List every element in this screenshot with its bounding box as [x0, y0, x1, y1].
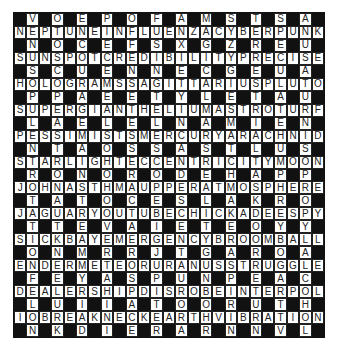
letter-cell[interactable]: C	[225, 156, 237, 169]
letter-cell[interactable]: B	[237, 26, 249, 39]
letter-cell[interactable]: R	[138, 259, 150, 272]
letter-cell[interactable]: I	[212, 156, 224, 169]
letter-cell[interactable]: M	[76, 259, 88, 272]
letter-cell[interactable]: O	[51, 13, 63, 26]
letter-cell[interactable]: R	[163, 130, 175, 143]
letter-cell[interactable]: U	[150, 259, 162, 272]
letter-cell[interactable]: N	[150, 65, 162, 78]
letter-cell[interactable]: S	[101, 130, 113, 143]
letter-cell[interactable]: O	[188, 285, 200, 298]
letter-cell[interactable]: M	[200, 104, 212, 117]
letter-cell[interactable]: U	[150, 26, 162, 39]
letter-cell[interactable]: E	[126, 52, 138, 65]
letter-cell[interactable]: R	[299, 104, 311, 117]
letter-cell[interactable]: E	[26, 26, 38, 39]
letter-cell[interactable]: C	[76, 39, 88, 52]
letter-cell[interactable]: T	[212, 52, 224, 65]
letter-cell[interactable]: Y	[88, 233, 100, 246]
letter-cell[interactable]: C	[101, 52, 113, 65]
letter-cell[interactable]: N	[26, 39, 38, 52]
letter-cell[interactable]: D	[175, 169, 187, 182]
letter-cell[interactable]: L	[299, 259, 311, 272]
letter-cell[interactable]: H	[138, 104, 150, 117]
letter-cell[interactable]: L	[312, 233, 324, 246]
letter-cell[interactable]: C	[200, 65, 212, 78]
letter-cell[interactable]: T	[274, 298, 286, 311]
letter-cell[interactable]: H	[101, 181, 113, 194]
letter-cell[interactable]: I	[113, 285, 125, 298]
letter-cell[interactable]: Y	[88, 207, 100, 220]
letter-cell[interactable]: C	[138, 156, 150, 169]
letter-cell[interactable]: E	[262, 52, 274, 65]
letter-cell[interactable]: S	[14, 156, 26, 169]
letter-cell[interactable]: R	[76, 207, 88, 220]
letter-cell[interactable]: Z	[188, 26, 200, 39]
letter-cell[interactable]: T	[150, 298, 162, 311]
letter-cell[interactable]: O	[299, 194, 311, 207]
letter-cell[interactable]: I	[101, 298, 113, 311]
letter-cell[interactable]: E	[101, 65, 113, 78]
letter-cell[interactable]: Y	[312, 207, 324, 220]
letter-cell[interactable]: U	[299, 91, 311, 104]
letter-cell[interactable]: U	[113, 207, 125, 220]
letter-cell[interactable]: R	[175, 311, 187, 324]
letter-cell[interactable]: I	[175, 52, 187, 65]
letter-cell[interactable]: O	[101, 194, 113, 207]
letter-cell[interactable]: S	[150, 143, 162, 156]
letter-cell[interactable]: A	[250, 169, 262, 182]
letter-cell[interactable]: A	[200, 181, 212, 194]
letter-cell[interactable]: R	[101, 246, 113, 259]
letter-cell[interactable]: A	[163, 311, 175, 324]
letter-cell[interactable]: E	[126, 91, 138, 104]
letter-cell[interactable]: A	[175, 259, 187, 272]
letter-cell[interactable]: T	[101, 259, 113, 272]
letter-cell[interactable]: U	[262, 259, 274, 272]
letter-cell[interactable]: R	[200, 130, 212, 143]
letter-cell[interactable]: A	[299, 13, 311, 26]
letter-cell[interactable]: Y	[299, 220, 311, 233]
letter-cell[interactable]: T	[237, 259, 249, 272]
letter-cell[interactable]: E	[150, 104, 162, 117]
letter-cell[interactable]: E	[312, 259, 324, 272]
letter-cell[interactable]: E	[274, 207, 286, 220]
letter-cell[interactable]: A	[101, 272, 113, 285]
letter-cell[interactable]: I	[88, 104, 100, 117]
letter-cell[interactable]: Z	[225, 39, 237, 52]
letter-cell[interactable]: T	[26, 194, 38, 207]
letter-cell[interactable]: E	[175, 65, 187, 78]
letter-cell[interactable]: A	[299, 65, 311, 78]
letter-cell[interactable]: U	[26, 52, 38, 65]
letter-cell[interactable]: T	[299, 78, 311, 91]
letter-cell[interactable]: I	[175, 104, 187, 117]
letter-cell[interactable]: H	[101, 156, 113, 169]
letter-cell[interactable]: Y	[274, 220, 286, 233]
letter-cell[interactable]: P	[237, 52, 249, 65]
letter-cell[interactable]: A	[51, 194, 63, 207]
letter-cell[interactable]: H	[39, 181, 51, 194]
letter-cell[interactable]: F	[126, 39, 138, 52]
letter-cell[interactable]: U	[287, 78, 299, 91]
letter-cell[interactable]: Y	[262, 156, 274, 169]
letter-cell[interactable]: G	[39, 207, 51, 220]
letter-cell[interactable]: R	[225, 298, 237, 311]
letter-cell[interactable]: A	[26, 207, 38, 220]
letter-cell[interactable]: E	[51, 259, 63, 272]
letter-cell[interactable]: S	[225, 13, 237, 26]
letter-cell[interactable]: E	[287, 181, 299, 194]
letter-cell[interactable]: E	[250, 65, 262, 78]
letter-cell[interactable]: S	[51, 52, 63, 65]
letter-cell[interactable]: O	[51, 39, 63, 52]
letter-cell[interactable]: A	[64, 207, 76, 220]
letter-cell[interactable]: A	[126, 181, 138, 194]
letter-cell[interactable]: L	[150, 117, 162, 130]
letter-cell[interactable]: G	[287, 259, 299, 272]
letter-cell[interactable]: A	[76, 233, 88, 246]
letter-cell[interactable]: I	[200, 207, 212, 220]
letter-cell[interactable]: C	[126, 194, 138, 207]
letter-cell[interactable]: E	[274, 39, 286, 52]
letter-cell[interactable]: Y	[225, 26, 237, 39]
letter-cell[interactable]: R	[64, 259, 76, 272]
letter-cell[interactable]: O	[101, 207, 113, 220]
letter-cell[interactable]: N	[175, 26, 187, 39]
letter-cell[interactable]: O	[76, 52, 88, 65]
